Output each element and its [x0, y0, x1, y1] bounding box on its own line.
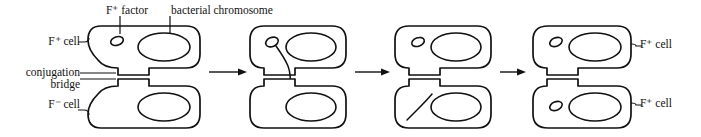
stage-4-group — [533, 26, 631, 128]
arrow-2 — [355, 68, 390, 75]
label-f-factor-text: F⁺ factor — [106, 4, 148, 16]
label-conjugation-bridge: conjugation bridge — [2, 66, 80, 91]
conjugation-diagram-canvas — [0, 0, 701, 137]
stage-2-top-cell — [250, 26, 346, 75]
label-conjugation-bridge-line2: bridge — [2, 78, 80, 90]
stage-3-top-cell — [395, 26, 491, 75]
stage-1-bottom-cell — [88, 79, 200, 128]
label-conjugation-bridge-line1: conjugation — [2, 66, 80, 78]
arrow-1 — [209, 68, 247, 75]
stage-2-bottom-cell — [250, 79, 346, 128]
arrow-3 — [500, 68, 526, 75]
label-fminus-cell-left: F⁻ cell — [8, 98, 80, 110]
label-bacterial-chromosome: bacterial chromosome — [163, 4, 281, 16]
stage-4-top-cell — [533, 26, 631, 75]
stage-3-bottom-cell — [395, 79, 491, 128]
label-fplus-cell-bottom-right: F⁺ cell — [640, 97, 700, 109]
label-fminus-cell-left-text: F⁻ cell — [48, 98, 80, 110]
stage-1-top-cell — [88, 26, 200, 75]
label-fplus-cell-bottom-right-text: F⁺ cell — [640, 97, 672, 109]
label-fplus-cell-top-right: F⁺ cell — [640, 38, 700, 50]
stage-2-group — [250, 26, 346, 128]
label-fplus-cell-left-text: F⁺ cell — [48, 35, 80, 47]
label-f-factor: F⁺ factor — [88, 4, 166, 16]
label-fplus-cell-left: F⁺ cell — [8, 35, 80, 47]
conjugation-diagram: F⁺ factor bacterial chromosome F⁺ cell c… — [0, 0, 701, 137]
stage-4-bottom-cell — [533, 79, 631, 128]
label-bacterial-chromosome-text: bacterial chromosome — [171, 4, 273, 16]
label-fplus-cell-top-right-text: F⁺ cell — [640, 38, 672, 50]
stage-1-group — [88, 26, 200, 128]
stage-3-group — [395, 26, 491, 128]
